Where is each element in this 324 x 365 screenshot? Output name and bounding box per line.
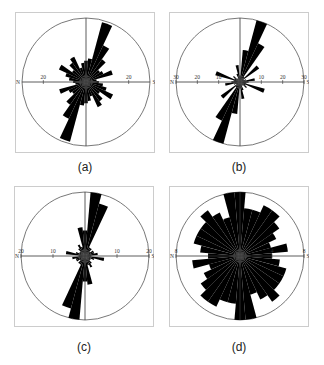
axis-end-label-right: S — [306, 253, 309, 259]
axis-end-label-right: S — [306, 79, 309, 85]
axis-end-label-left: N — [170, 79, 174, 85]
axis-end-label-right: S — [151, 253, 154, 259]
rose-diagram-d: 848NS — [169, 186, 309, 327]
tick-label: 20 — [195, 74, 201, 80]
axis-end-label-left: N — [16, 79, 20, 85]
tick-label: 4 — [271, 248, 274, 254]
tick-label: 10 — [216, 74, 222, 80]
tick-label: 20 — [41, 74, 47, 80]
tick-label: 20 — [280, 74, 286, 80]
tick-label: 20 — [18, 248, 24, 254]
caption-c: (c) — [14, 340, 154, 354]
tick-label: 10 — [50, 248, 56, 254]
tick-label: 8 — [303, 248, 306, 254]
rose-diagram-a: 2020NS — [15, 12, 155, 153]
caption-a: (a) — [15, 160, 155, 174]
tick-label: 10 — [114, 248, 120, 254]
caption-b: (b) — [169, 160, 309, 174]
tick-label: 30 — [173, 74, 179, 80]
rose-diagram-c: 20101020NS — [14, 186, 154, 327]
axis-end-label-right: S — [152, 79, 155, 85]
caption-d: (d) — [169, 340, 309, 354]
rose-diagram-b: 302010102030NS — [169, 12, 309, 153]
axis-end-label-left: N — [170, 253, 174, 259]
tick-label: 8 — [175, 248, 178, 254]
tick-label: 20 — [126, 74, 132, 80]
tick-label: 10 — [259, 74, 265, 80]
axis-end-label-left: N — [15, 253, 19, 259]
